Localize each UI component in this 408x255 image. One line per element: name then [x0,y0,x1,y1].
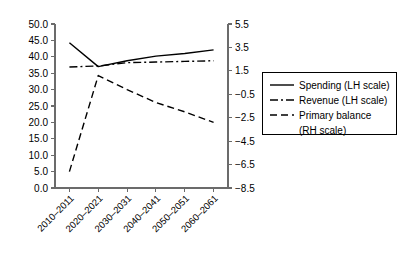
right-tick-label: −6.5 [235,159,255,170]
legend-label: Revenue (LH scale) [299,95,387,106]
dual-axis-line-chart: 0.05.010.015.020.025.030.035.040.045.050… [0,0,408,255]
chart-container: 0.05.010.015.020.025.030.035.040.045.050… [0,0,408,255]
legend-label: Primary balance [299,110,372,121]
right-tick-label: −2.5 [235,112,255,123]
left-axis-ticks: 0.05.010.015.020.025.030.035.040.045.050… [29,19,55,194]
right-tick-label: 5.5 [235,19,249,30]
legend-label: Spending (LH scale) [299,80,390,91]
left-tick-label: 25.0 [29,101,49,112]
right-tick-label: −4.5 [235,136,255,147]
left-tick-label: 40.0 [29,51,49,62]
left-tick-label: 15.0 [29,133,49,144]
legend-label: (RH scale) [299,125,346,136]
x-axis-labels: 2010–20112020–20212030–20312040–20412050… [35,193,220,234]
right-tick-label: 3.5 [235,42,249,53]
right-tick-label: −8.5 [235,183,255,194]
right-axis-ticks: −8.5−6.5−4.5−2.5−0.51.53.55.5 [228,19,255,194]
right-tick-label: 1.5 [235,65,249,76]
chart-legend: Spending (LH scale)Revenue (LH scale)Pri… [262,72,396,136]
left-tick-label: 10.0 [29,150,49,161]
series-line-revenue-lh-scale [69,61,213,67]
series-lines [69,43,213,172]
left-tick-label: 0.0 [34,183,48,194]
left-tick-label: 50.0 [29,19,49,30]
left-tick-label: 20.0 [29,117,49,128]
left-tick-label: 45.0 [29,35,49,46]
right-axis-group: −8.5−6.5−4.5−2.5−0.51.53.55.5 [228,19,255,194]
x-axis-group: 2010–20112020–20212030–20312040–20412050… [35,188,228,234]
left-tick-label: 5.0 [34,166,48,177]
left-tick-label: 35.0 [29,68,49,79]
x-axis-ticks [69,188,213,192]
right-tick-label: −0.5 [235,89,255,100]
left-axis-group: 0.05.010.015.020.025.030.035.040.045.050… [29,19,55,194]
series-line-primary-balance-rh-scale [69,76,213,172]
series-line-spending-lh-scale [69,43,213,67]
left-tick-label: 30.0 [29,84,49,95]
